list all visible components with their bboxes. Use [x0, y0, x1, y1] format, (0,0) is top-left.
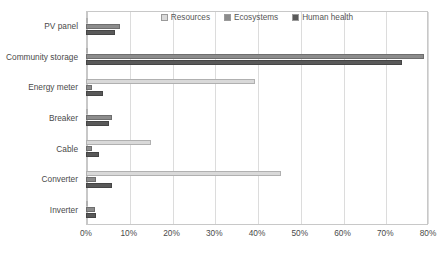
y-axis-label: Energy meter [28, 82, 78, 92]
y-axis-label: Breaker [49, 113, 78, 123]
bar-resources [86, 201, 88, 206]
bar-resources [86, 79, 255, 84]
x-axis-labels: 0%10%20%30%40%50%60%70%80% [86, 228, 428, 244]
bar-resources [86, 140, 151, 145]
y-axis-label: PV panel [44, 21, 78, 31]
x-axis-tick-label: 40% [249, 228, 266, 238]
bar-resources [86, 18, 88, 23]
x-axis-tick-label: 10% [120, 228, 137, 238]
bar-resources [86, 109, 88, 114]
x-axis-tick-label: 50% [291, 228, 308, 238]
x-axis-tick-label: 20% [163, 228, 180, 238]
bar-ecosystems [86, 24, 120, 29]
bar-ecosystems [86, 115, 112, 120]
bar-ecosystems [86, 85, 92, 90]
y-axis-label: Converter [42, 174, 78, 184]
x-axis-tick-label: 30% [206, 228, 223, 238]
bar-group [86, 72, 428, 103]
y-axis-labels: PV panelCommunity storageEnergy meterBre… [0, 11, 82, 225]
bar-ecosystems [86, 54, 424, 59]
bar-group [86, 194, 428, 225]
y-axis-label: Inverter [50, 205, 78, 215]
bar-human-health [86, 152, 99, 157]
bar-human-health [86, 30, 115, 35]
bar-ecosystems [86, 207, 95, 212]
bar-human-health [86, 183, 112, 188]
x-axis-tick-label: 0% [80, 228, 92, 238]
bar-groups [86, 11, 428, 225]
bar-group [86, 11, 428, 42]
bar-human-health [86, 60, 402, 65]
bar-group [86, 42, 428, 73]
bar-group [86, 103, 428, 134]
bar-human-health [86, 213, 96, 218]
bar-human-health [86, 91, 103, 96]
y-axis-label: Cable [56, 144, 78, 154]
x-axis-tick-label: 70% [377, 228, 394, 238]
bar-group [86, 133, 428, 164]
bar-group [86, 164, 428, 195]
x-axis-tick-label: 80% [420, 228, 437, 238]
bar-resources [86, 171, 281, 176]
bar-human-health [86, 121, 109, 126]
bar-ecosystems [86, 177, 96, 182]
x-axis-tick-label: 60% [334, 228, 351, 238]
gridline-80% [428, 12, 429, 224]
bar-ecosystems [86, 146, 92, 151]
bar-chart: ResourcesEcosystemsHuman health PV panel… [0, 0, 438, 253]
bar-resources [86, 48, 88, 53]
y-axis-label: Community storage [6, 52, 78, 62]
